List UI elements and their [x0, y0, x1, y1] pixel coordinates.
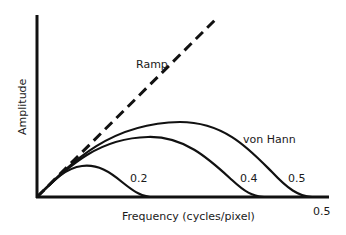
cutoff-0.4-label: 0.4 [240, 172, 258, 185]
cutoff-0.5-label: 0.5 [288, 172, 306, 185]
x-tick-0.5: 0.5 [313, 205, 331, 218]
y-axis-label: Amplitude [16, 78, 29, 135]
cutoff-0.2-label: 0.2 [130, 172, 148, 185]
von-hann-label: von Hann [243, 133, 296, 146]
chart: Ramp von Hann 0.2 0.4 0.5 0.5 Frequency … [0, 0, 346, 235]
ramp-label: Ramp [136, 58, 168, 71]
curve-0.4 [37, 137, 264, 197]
x-axis-label: Frequency (cycles/pixel) [122, 210, 255, 223]
